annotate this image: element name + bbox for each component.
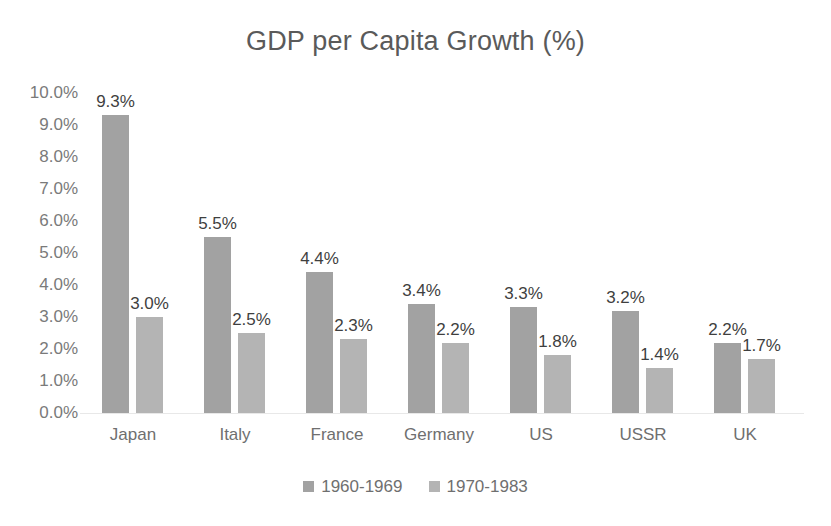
bar-value-label: 3.2% bbox=[606, 289, 645, 306]
bar-group: 3.3%1.8% bbox=[494, 93, 596, 413]
bar-us-series-1[interactable]: 3.3% bbox=[510, 307, 537, 413]
bar-italy-series-2[interactable]: 2.5% bbox=[238, 333, 265, 413]
bar-group: 3.4%2.2% bbox=[392, 93, 494, 413]
y-axis-tick-label: 2.0% bbox=[0, 339, 78, 359]
bar-value-label: 9.3% bbox=[96, 93, 135, 110]
bar-france-series-1[interactable]: 4.4% bbox=[306, 272, 333, 413]
x-axis-baseline bbox=[80, 413, 804, 414]
bar-japan-series-1[interactable]: 9.3% bbox=[102, 115, 129, 413]
x-axis-tick-label: USSR bbox=[619, 425, 666, 445]
bar-value-label: 3.4% bbox=[402, 282, 441, 299]
legend-label: 1960-1969 bbox=[321, 478, 402, 495]
y-axis-tick-label: 4.0% bbox=[0, 275, 78, 295]
y-axis-tick-label: 1.0% bbox=[0, 371, 78, 391]
y-axis-tick-label: 0.0% bbox=[0, 403, 78, 423]
legend-swatch-icon bbox=[303, 481, 314, 492]
bar-group: 3.2%1.4% bbox=[596, 93, 698, 413]
bar-us-series-2[interactable]: 1.8% bbox=[544, 355, 571, 413]
bar-germany-series-1[interactable]: 3.4% bbox=[408, 304, 435, 413]
legend-swatch-icon bbox=[429, 481, 440, 492]
x-axis-tick-label: France bbox=[311, 425, 364, 445]
bar-value-label: 2.5% bbox=[232, 311, 271, 328]
bar-japan-series-2[interactable]: 3.0% bbox=[136, 317, 163, 413]
bar-value-label: 3.3% bbox=[504, 285, 543, 302]
y-axis-tick-label: 5.0% bbox=[0, 243, 78, 263]
bar-group: 5.5%2.5% bbox=[188, 93, 290, 413]
bar-value-label: 2.2% bbox=[708, 321, 747, 338]
x-axis-tick-label: US bbox=[529, 425, 553, 445]
bar-value-label: 1.7% bbox=[742, 337, 781, 354]
bar-group: 2.2%1.7% bbox=[698, 93, 800, 413]
bar-ussr-series-2[interactable]: 1.4% bbox=[646, 368, 673, 413]
chart-title: GDP per Capita Growth (%) bbox=[0, 26, 831, 57]
x-axis-tick-label: Japan bbox=[110, 425, 156, 445]
bar-uk-series-2[interactable]: 1.7% bbox=[748, 359, 775, 413]
chart-legend: 1960-19691970-1983 bbox=[0, 478, 831, 495]
plot-area: 9.3%3.0%5.5%2.5%4.4%2.3%3.4%2.2%3.3%1.8%… bbox=[86, 93, 800, 413]
y-axis-tick-label: 6.0% bbox=[0, 211, 78, 231]
bar-value-label: 5.5% bbox=[198, 215, 237, 232]
bar-value-label: 3.0% bbox=[130, 295, 169, 312]
legend-label: 1970-1983 bbox=[447, 478, 528, 495]
bar-uk-series-1[interactable]: 2.2% bbox=[714, 343, 741, 413]
bar-group: 4.4%2.3% bbox=[290, 93, 392, 413]
bar-france-series-2[interactable]: 2.3% bbox=[340, 339, 367, 413]
x-axis: JapanItalyFranceGermanyUSUSSRUK bbox=[86, 425, 800, 455]
chart-container: GDP per Capita Growth (%) 10.0%9.0%8.0%7… bbox=[0, 0, 831, 526]
y-axis-tick-label: 7.0% bbox=[0, 179, 78, 199]
bar-italy-series-1[interactable]: 5.5% bbox=[204, 237, 231, 413]
bar-germany-series-2[interactable]: 2.2% bbox=[442, 343, 469, 413]
bar-value-label: 2.2% bbox=[436, 321, 475, 338]
x-axis-tick-label: Germany bbox=[404, 425, 474, 445]
bar-value-label: 1.8% bbox=[538, 333, 577, 350]
bar-ussr-series-1[interactable]: 3.2% bbox=[612, 311, 639, 413]
x-axis-tick-label: Italy bbox=[219, 425, 250, 445]
bar-value-label: 1.4% bbox=[640, 346, 679, 363]
bar-value-label: 4.4% bbox=[300, 250, 339, 267]
bar-value-label: 2.3% bbox=[334, 317, 373, 334]
y-axis-tick-label: 8.0% bbox=[0, 147, 78, 167]
bar-group: 9.3%3.0% bbox=[86, 93, 188, 413]
legend-item-2[interactable]: 1970-1983 bbox=[429, 478, 528, 495]
y-axis: 10.0%9.0%8.0%7.0%6.0%5.0%4.0%3.0%2.0%1.0… bbox=[0, 93, 78, 413]
y-axis-tick-label: 3.0% bbox=[0, 307, 78, 327]
y-axis-tick-label: 9.0% bbox=[0, 115, 78, 135]
legend-item-1[interactable]: 1960-1969 bbox=[303, 478, 402, 495]
x-axis-tick-label: UK bbox=[733, 425, 757, 445]
y-axis-tick-label: 10.0% bbox=[0, 83, 78, 103]
